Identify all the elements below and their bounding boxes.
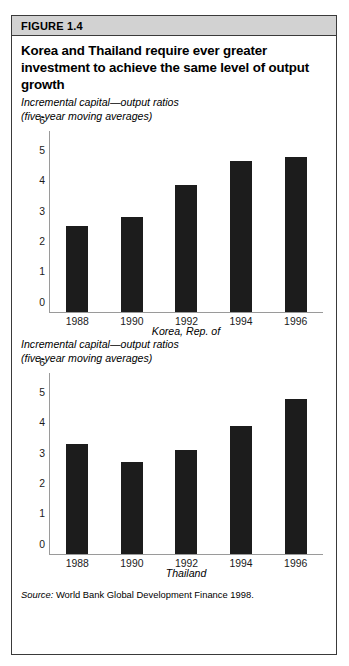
chart-korea-x-axis-title: Korea, Rep. of [49, 325, 323, 337]
chart-thailand-y-tick-label: 2 [39, 479, 45, 489]
panel-2-subtitle-line-1: Incremental capital—output ratios [21, 338, 327, 351]
chart-thailand-bar-slot: 1994 [214, 373, 269, 554]
panel-2-subtitle-line-2: (five-year moving averages) [21, 352, 327, 365]
chart-thailand-bar [121, 462, 143, 554]
chart-korea-y-tick-label: 0 [39, 298, 45, 308]
chart-korea: 6543210 19881990199219941996 Korea, Rep.… [21, 125, 329, 338]
chart-korea-x-axis-line [49, 312, 323, 313]
chart-korea-bar [285, 157, 307, 312]
chart-korea-bar-slot: 1996 [268, 131, 323, 312]
panel-2-subtitle: Incremental capital—output ratios (five-… [21, 338, 327, 365]
chart-korea-bar [230, 161, 252, 312]
chart-korea-y-tick-label: 5 [39, 146, 45, 156]
chart-thailand-bar [66, 444, 88, 554]
chart-korea-bar-slot: 1988 [50, 131, 105, 312]
chart-korea-y-tick-label: 3 [39, 207, 45, 217]
chart-thailand-bar-slot: 1996 [268, 373, 323, 554]
chart-thailand: 6543210 19881990199219941996 Thailand [21, 367, 329, 580]
chart-korea-y-tick-label: 1 [39, 267, 45, 277]
chart-thailand-bar [285, 399, 307, 554]
chart-korea-bar-slot: 1994 [214, 131, 269, 312]
figure-title: Korea and Thailand require ever greater … [21, 43, 327, 93]
chart-thailand-bar [175, 450, 197, 554]
chart-thailand-y-tick-label: 6 [39, 357, 45, 367]
chart-thailand-bar-slot: 1990 [105, 373, 160, 554]
panel-1-subtitle-line-2: (five-year moving averages) [21, 110, 327, 123]
chart-korea-y-tick-label: 2 [39, 237, 45, 247]
figure-body: Korea and Thailand require ever greater … [12, 36, 336, 580]
panel-1-subtitle-line-1: Incremental capital—output ratios [21, 96, 327, 109]
chart-korea-bar [175, 185, 197, 312]
chart-thailand-bars: 19881990199219941996 [50, 373, 323, 554]
chart-thailand-x-axis-title: Thailand [49, 567, 323, 579]
source-label: Source: [21, 589, 53, 600]
chart-thailand-bar-slot: 1988 [50, 373, 105, 554]
source-text: World Bank Global Development Finance 19… [53, 589, 253, 600]
chart-thailand-plot-area: 6543210 19881990199219941996 [49, 373, 323, 555]
chart-korea-bar [121, 217, 143, 312]
chart-thailand-y-tick-label: 1 [39, 509, 45, 519]
panel-1-subtitle: Incremental capital—output ratios (five-… [21, 96, 327, 123]
chart-thailand-y-tick-label: 3 [39, 448, 45, 458]
figure-header-band: FIGURE 1.4 [12, 16, 336, 36]
chart-korea-y-tick-label: 4 [39, 176, 45, 186]
chart-thailand-y-tick-label: 0 [39, 539, 45, 549]
chart-thailand-bar-slot: 1992 [159, 373, 214, 554]
chart-korea-bar-slot: 1992 [159, 131, 214, 312]
chart-korea-bars: 19881990199219941996 [50, 131, 323, 312]
figure-frame: FIGURE 1.4 Korea and Thailand require ev… [11, 15, 337, 655]
source-note: Source: World Bank Global Development Fi… [12, 580, 336, 600]
chart-korea-plot-area: 6543210 19881990199219941996 [49, 131, 323, 313]
chart-thailand-x-axis-line [49, 554, 323, 555]
chart-thailand-y-tick-label: 4 [39, 418, 45, 428]
chart-korea-bar-slot: 1990 [105, 131, 160, 312]
chart-thailand-bar [230, 426, 252, 554]
chart-korea-y-tick-label: 6 [39, 116, 45, 126]
chart-korea-bar [66, 226, 88, 312]
chart-thailand-y-tick-label: 5 [39, 388, 45, 398]
figure-number-label: FIGURE 1.4 [21, 20, 83, 32]
